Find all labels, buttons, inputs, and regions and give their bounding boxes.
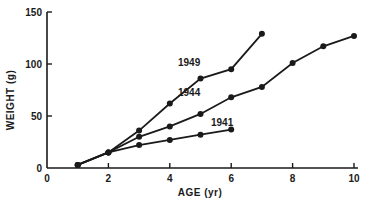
data-point xyxy=(290,60,296,66)
x-ticks: 0246810 xyxy=(44,163,360,184)
line-chart: 050100150 0246810 AGE (yr) WEIGHT (g) 19… xyxy=(0,0,370,206)
y-ticks: 050100150 xyxy=(25,7,52,174)
data-point xyxy=(167,137,173,143)
data-point xyxy=(320,43,326,49)
data-point xyxy=(75,162,81,168)
x-tick-label: 0 xyxy=(44,173,50,184)
data-point xyxy=(198,111,204,117)
y-tick-label: 100 xyxy=(25,59,42,70)
data-point xyxy=(228,66,234,72)
data-point xyxy=(259,84,265,90)
y-tick-label: 0 xyxy=(36,163,42,174)
data-point xyxy=(351,33,357,39)
y-tick-label: 50 xyxy=(31,111,43,122)
series-label-1949: 1949 xyxy=(178,57,201,68)
x-tick-label: 6 xyxy=(228,173,234,184)
x-tick-label: 2 xyxy=(106,173,112,184)
data-point xyxy=(136,128,142,134)
x-tick-label: 4 xyxy=(167,173,173,184)
series-line-1941 xyxy=(78,130,232,165)
series-label-1941: 1941 xyxy=(211,117,234,128)
data-point xyxy=(167,123,173,129)
data-point xyxy=(136,134,142,140)
x-tick-label: 8 xyxy=(290,173,296,184)
data-point xyxy=(105,149,111,155)
data-point xyxy=(259,31,265,37)
axes xyxy=(47,12,358,168)
y-axis-title: WEIGHT (g) xyxy=(5,70,16,131)
x-tick-label: 10 xyxy=(348,173,360,184)
data-point xyxy=(167,101,173,107)
y-tick-label: 150 xyxy=(25,7,42,18)
x-axis-title: AGE (yr) xyxy=(178,187,223,198)
series-group xyxy=(75,31,357,168)
data-point xyxy=(198,76,204,82)
data-point xyxy=(198,132,204,138)
series-line-1949 xyxy=(78,34,262,165)
data-point xyxy=(136,142,142,148)
series-label-1944: 1944 xyxy=(178,87,201,98)
data-point xyxy=(228,94,234,100)
